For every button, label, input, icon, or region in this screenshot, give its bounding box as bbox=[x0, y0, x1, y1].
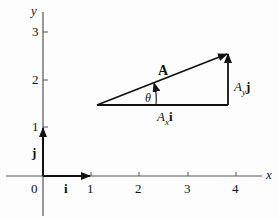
vector-diagram: y x 0 1 2 3 4 1 2 3 j i A θ Axi Ayj bbox=[0, 0, 278, 218]
x-axis-label: x bbox=[266, 168, 272, 181]
vector-a-arrow bbox=[97, 54, 227, 105]
x-tick-label: 1 bbox=[87, 182, 94, 195]
angle-arc bbox=[154, 83, 156, 105]
y-tick-label: 2 bbox=[32, 73, 39, 86]
y-component-label: Ayj bbox=[234, 80, 250, 97]
x-tick-label: 2 bbox=[135, 182, 142, 195]
origin-label: 0 bbox=[31, 182, 38, 195]
angle-theta-label: θ bbox=[145, 92, 151, 104]
y-axis-label: y bbox=[31, 4, 37, 17]
unit-vector-i-label: i bbox=[64, 182, 68, 195]
x-tick-label: 4 bbox=[232, 182, 239, 195]
y-ticks bbox=[43, 32, 48, 127]
unit-vector-j-label: j bbox=[32, 146, 36, 159]
y-tick-label: 3 bbox=[32, 25, 39, 38]
vector-a-label: A bbox=[158, 64, 168, 78]
x-component-label: Axi bbox=[157, 110, 173, 127]
x-tick-label: 3 bbox=[184, 182, 191, 195]
y-tick-label: 1 bbox=[32, 120, 39, 133]
